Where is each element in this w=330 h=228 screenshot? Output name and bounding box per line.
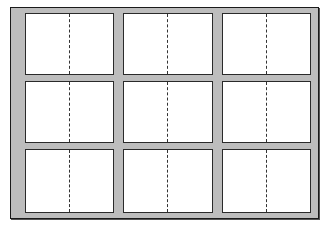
fold-line	[167, 150, 168, 212]
fold-line	[69, 150, 70, 212]
panel-r2-c3	[222, 81, 311, 143]
panel-r1-c2	[123, 13, 213, 75]
fold-line	[167, 14, 168, 74]
fold-line	[69, 14, 70, 74]
panel-r1-c3	[222, 13, 311, 75]
fold-line	[69, 82, 70, 142]
panel-r2-c1	[25, 81, 114, 143]
fold-line	[266, 82, 267, 142]
panel-r3-c3	[222, 149, 311, 213]
panel-r3-c2	[123, 149, 213, 213]
panel-r2-c2	[123, 81, 213, 143]
fold-line	[167, 82, 168, 142]
fold-line	[266, 14, 267, 74]
panel-r3-c1	[25, 149, 114, 213]
fold-line	[266, 150, 267, 212]
panel-r1-c1	[25, 13, 114, 75]
